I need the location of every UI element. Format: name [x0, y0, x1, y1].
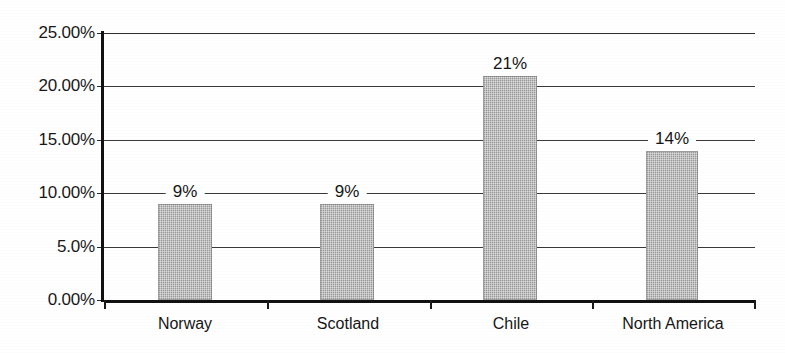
bar-chile — [483, 76, 537, 300]
x-axis-tick-0 — [104, 300, 106, 309]
bar-chart: 25.00% 20.00% 15.00% 10.00% 5.0% 0.00% 9… — [0, 0, 785, 353]
bar-scotland — [320, 204, 374, 300]
bar-norway — [158, 204, 212, 300]
y-axis-label-10: 10.00% — [39, 183, 95, 203]
y-axis-label-20: 20.00% — [39, 76, 95, 96]
x-axis-tick-1 — [267, 300, 269, 309]
gridline-25 — [104, 33, 755, 34]
x-axis-label-north-america: North America — [622, 315, 723, 333]
bar-north-america — [646, 151, 698, 301]
plot-area — [104, 33, 755, 300]
value-label-norway: 9% — [166, 182, 205, 201]
y-axis-label-0: 0.00% — [48, 290, 95, 310]
x-axis-tick-3 — [592, 300, 594, 309]
x-axis-tick-2 — [430, 300, 432, 309]
value-label-scotland: 9% — [328, 182, 367, 201]
value-label-chile: 21% — [486, 54, 534, 73]
x-axis-label-chile: Chile — [493, 315, 529, 333]
x-axis-label-norway: Norway — [158, 315, 212, 333]
x-axis-tick-4 — [754, 300, 756, 309]
value-label-north-america: 14% — [648, 129, 696, 148]
x-axis-label-scotland: Scotland — [317, 315, 379, 333]
y-axis-label-25: 25.00% — [39, 23, 95, 43]
y-axis-label-15: 15.00% — [39, 130, 95, 150]
y-axis-label-5: 5.0% — [57, 237, 95, 257]
gridline-20 — [104, 86, 755, 87]
